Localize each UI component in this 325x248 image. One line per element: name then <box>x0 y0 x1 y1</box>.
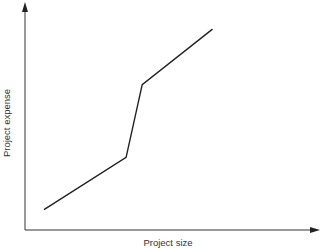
x-axis-arrow <box>310 227 320 233</box>
x-axis-label: Project size <box>143 237 192 248</box>
y-axis-label: Project expense <box>1 89 12 157</box>
y-axis-arrow <box>22 2 28 12</box>
series-line-expense <box>44 29 213 210</box>
chart: Project size Project expense <box>0 0 325 248</box>
series-layer <box>44 29 213 210</box>
